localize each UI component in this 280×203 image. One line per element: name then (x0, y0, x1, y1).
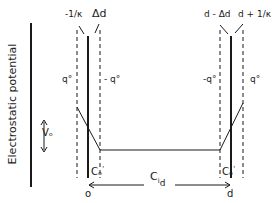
right-inner-pointer (220, 25, 228, 34)
voltage-label: Vₒ (42, 127, 53, 138)
left-inner-pointer (95, 24, 99, 33)
potential-profile (77, 103, 243, 150)
left-capacitance-label: Cₒ' (91, 165, 104, 177)
right-inner-label: d - Δd (204, 9, 231, 19)
electrostatic-potential-diagram: Electrostatic potential Vₒ -1/κ Δd q° - … (0, 0, 280, 203)
right-charge-outside: q° (250, 74, 260, 84)
left-inner-label: Δd (92, 7, 107, 20)
right-outer-pointer (235, 24, 243, 33)
bulk-capacitance-label: Cid (150, 170, 165, 188)
left-outer-label: -1/κ (65, 9, 83, 19)
position-d-label: d (227, 188, 233, 199)
right-capacitance-label: Cₒ' (222, 165, 235, 177)
left-charge-outside: q° (62, 74, 72, 84)
right-outer-label: d + 1/κ (238, 9, 272, 19)
position-origin-label: o (85, 188, 91, 199)
right-charge-inside: -q° (203, 74, 216, 84)
y-axis-label: Electrostatic potential (6, 44, 19, 165)
left-outer-pointer (79, 26, 84, 34)
left-charge-inside: - q° (104, 74, 120, 84)
